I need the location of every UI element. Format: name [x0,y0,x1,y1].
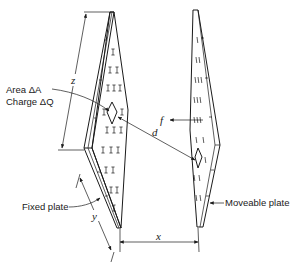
moveable-plate-edge-ticks [201,38,214,196]
charge-mark [120,109,123,115]
area-label: Area ΔA [6,84,42,95]
charge-mark [197,97,198,103]
capacitor-diagram: z y x d f Area ΔA Charge ΔQ Fixed plate … [0,0,295,270]
charge-mark [109,147,112,153]
charge-mark [200,195,201,201]
charge-mark [118,85,121,91]
charge-mark [195,77,196,83]
charge-mark [198,77,199,83]
charge-mark [203,137,204,143]
charge-mark [201,77,202,83]
charge-mark [196,57,197,63]
charge-mark [200,97,201,103]
charge-mark [196,137,197,143]
moveable-plate-charges [194,37,206,201]
fixed-plate [84,12,128,228]
area-element-fixed [107,102,117,124]
force-f: f [160,114,203,126]
charge-mark [115,67,118,73]
charge-mark [194,97,195,103]
charge-mark [119,127,122,133]
charge-mark [105,127,108,133]
charge-mark [102,109,105,115]
dimension-y: y [76,174,114,262]
charge-mark [205,157,206,163]
charge-mark [194,175,195,181]
moveable-plate-label: Moveable plate [225,197,289,208]
charge-mark [196,195,197,201]
moveable-plate-edge-line [198,10,215,145]
charge-mark [111,49,114,55]
dimension-z: z [58,12,110,150]
charge-mark [112,85,115,91]
moveable-plate-callout: Moveable plate [210,197,289,208]
charge-mark [111,167,114,173]
fixed-plate-charges [101,49,123,211]
charge-mark [115,187,118,193]
fixed-plate-callout: Fixed plate [22,198,100,212]
charge-mark [104,167,107,173]
charge-mark [101,147,104,153]
dim-x-label: x [155,230,161,242]
fixed-plate-label: Fixed plate [22,201,68,212]
charge-mark [108,67,111,73]
dim-d-label: d [152,126,158,138]
distance-d: d [118,117,195,160]
charge-label: Charge ΔQ [6,96,54,107]
fixed-plate-edge [84,12,121,228]
force-f-label: f [160,114,165,126]
charge-mark [199,175,200,181]
charge-mark [109,187,112,193]
charge-mark [106,85,109,91]
charge-mark [199,57,200,63]
charge-mark [116,147,119,153]
dim-z-label: z [70,74,76,86]
dimension-x: x [120,228,199,252]
area-element-moveable [195,148,202,168]
dim-y-label: y [91,210,97,222]
charge-mark [112,127,115,133]
charge-mark [197,37,198,43]
